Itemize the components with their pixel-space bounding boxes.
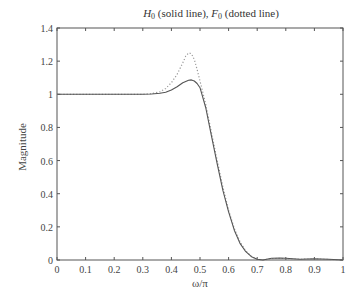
x-tick-label: 0.1 <box>79 264 92 275</box>
x-tick-labels: 00.10.20.30.40.50.60.70.80.91 <box>55 264 346 275</box>
x-tick-label: 1 <box>341 264 346 275</box>
y-tick-label: 1 <box>48 89 53 100</box>
y-tick-label: 1.2 <box>41 56 54 67</box>
series-f0-line <box>57 53 343 260</box>
y-tick-labels: 00.20.40.60.811.21.4 <box>41 23 54 266</box>
y-tick-label: 1.4 <box>41 23 54 34</box>
y-tick-label: 0.8 <box>41 122 54 133</box>
y-tick-label: 0.6 <box>41 156 54 167</box>
x-tick-label: 0.8 <box>280 264 293 275</box>
y-axis-label: Magnitude <box>16 123 28 171</box>
x-tick-label: 0.2 <box>108 264 121 275</box>
x-tick-label: 0 <box>55 264 60 275</box>
plot-frame <box>57 28 343 260</box>
axis-ticks <box>57 28 343 260</box>
y-tick-label: 0.4 <box>41 189 54 200</box>
plot-series <box>57 53 343 260</box>
chart-title: H0 (solid line), F0 (dotted line) <box>142 7 279 21</box>
x-tick-label: 0.6 <box>222 264 235 275</box>
y-tick-label: 0.2 <box>41 222 54 233</box>
x-tick-label: 0.3 <box>137 264 150 275</box>
x-tick-label: 0.5 <box>194 264 207 275</box>
x-tick-label: 0.4 <box>165 264 178 275</box>
x-tick-label: 0.7 <box>251 264 264 275</box>
chart: H0 (solid line), F0 (dotted line) 00.10.… <box>0 0 361 295</box>
x-tick-label: 0.9 <box>308 264 321 275</box>
x-axis-label: ω/π <box>192 277 208 289</box>
y-tick-label: 0 <box>48 255 53 266</box>
series-h0-line <box>57 80 343 260</box>
